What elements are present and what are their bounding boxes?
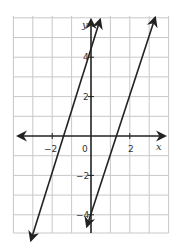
line-y-3x-plus-4 bbox=[31, 20, 100, 240]
tick-label-x-2: 2 bbox=[128, 144, 134, 154]
coordinate-plane: −2 0 2 4 2 −2 −4 x y bbox=[0, 0, 178, 249]
y-axis-label: y bbox=[81, 19, 88, 30]
tick-label-y-neg2: −2 bbox=[76, 171, 89, 181]
tick-label-y-2: 2 bbox=[83, 92, 89, 102]
tick-label-x-neg2: −2 bbox=[44, 144, 57, 154]
tick-label-y-neg4: −4 bbox=[76, 210, 90, 220]
tick-label-x-0: 0 bbox=[82, 144, 88, 154]
x-axis-label: x bbox=[156, 141, 162, 152]
